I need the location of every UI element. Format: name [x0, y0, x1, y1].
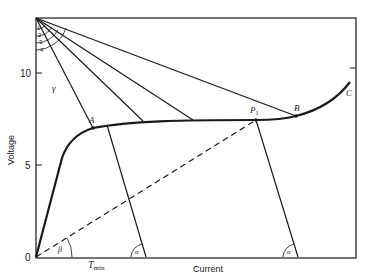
alpha-label-2: α — [287, 248, 291, 256]
y-tick-label-0: 0 — [25, 252, 31, 263]
label-P1: P1 — [249, 105, 259, 116]
alpha-label-1: α — [135, 248, 139, 256]
fan-line-3 — [36, 18, 193, 120]
arc-label-4: 4 — [40, 47, 44, 53]
fan-line-2 — [36, 18, 143, 121]
parallel-line-1 — [107, 125, 146, 257]
gamma-label: γ — [52, 83, 56, 93]
arc-label-2: 2 — [38, 32, 42, 38]
y-axis-label: Voltage — [6, 135, 16, 165]
voltage-current-diagram: 10 5 0 Voltage Current Tmin 1 2 3 4 γ β … — [0, 0, 366, 279]
y-tick-label-10: 10 — [20, 68, 32, 79]
x-axis-label: Current — [193, 264, 224, 274]
label-A: A — [88, 115, 95, 125]
point-A — [91, 126, 95, 130]
beta-arc — [67, 238, 72, 257]
beta-label: β — [57, 245, 62, 254]
plot-frame — [36, 18, 356, 258]
label-B: B — [294, 103, 300, 113]
point-P1 — [254, 118, 258, 122]
t-min-label: Tmin — [88, 259, 105, 272]
y-tick-label-5: 5 — [25, 160, 31, 171]
fan-line-to-B — [36, 18, 296, 116]
label-C: C — [346, 88, 353, 98]
point-B — [294, 114, 298, 118]
dashed-load-line — [36, 120, 256, 257]
parallel-line-2 — [256, 120, 298, 257]
